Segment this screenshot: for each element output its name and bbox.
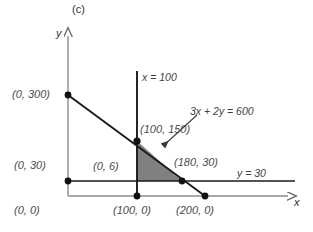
point-200-0 xyxy=(202,193,209,200)
graph-canvas xyxy=(0,0,313,232)
label-point-180-30: (180, 30) xyxy=(174,157,218,168)
label-line-3x-2y-600: 3x + 2y = 600 xyxy=(190,106,254,117)
label-line-x-100: x = 100 xyxy=(142,72,177,83)
label-point-100-150: (100, 150) xyxy=(140,124,190,135)
label-point-0-30: (0, 30) xyxy=(14,160,46,171)
label-point-200-0: (200, 0) xyxy=(176,205,214,216)
point-100-150 xyxy=(133,137,140,144)
point-0-300 xyxy=(65,92,72,99)
x-axis-label: x xyxy=(294,197,300,208)
label-point-0-6: (0, 6) xyxy=(93,161,119,172)
label-point-0-0: (0, 0) xyxy=(14,205,40,216)
label-point-0-300: (0, 300) xyxy=(12,89,50,100)
label-point-100-0: (100, 0) xyxy=(113,205,151,216)
point-180-30 xyxy=(179,178,186,185)
y-axis-label: y xyxy=(56,28,62,39)
panel-label: (c) xyxy=(72,4,85,15)
label-line-y-30: y = 30 xyxy=(237,168,266,179)
figure-panel-c: (c) y x (0, 300) (100, 150) (0, 30) (0, … xyxy=(0,0,313,232)
point-100-0 xyxy=(134,193,141,200)
point-0-30 xyxy=(65,178,72,185)
